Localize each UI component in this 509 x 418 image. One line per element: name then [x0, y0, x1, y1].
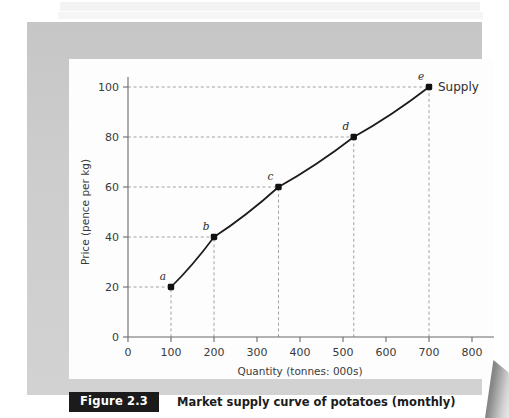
figure-frame: 0204060801000100200300400500600700800Qua… [27, 22, 482, 395]
data-point-d[interactable] [351, 134, 357, 140]
x-tick-label-0: 0 [125, 346, 132, 359]
y-tick-label-60: 60 [105, 181, 119, 194]
data-point-label-c: c [268, 170, 274, 182]
x-tick-label-300: 300 [247, 346, 268, 359]
y-tick-label-80: 80 [105, 131, 119, 144]
figure-number-badge: Figure 2.3 [69, 392, 159, 413]
data-point-label-e: e [418, 70, 424, 82]
x-tick-label-600: 600 [376, 346, 397, 359]
scan-bleed-band-top [60, 2, 480, 11]
data-point-b[interactable] [211, 234, 217, 240]
y-tick-label-40: 40 [105, 231, 119, 244]
x-tick-label-700: 700 [419, 346, 440, 359]
data-point-c[interactable] [275, 184, 281, 190]
supply-curve-chart: 0204060801000100200300400500600700800Qua… [69, 59, 494, 379]
data-point-label-d: d [342, 120, 349, 132]
data-point-label-a: a [160, 270, 166, 282]
figure-caption-row: Figure 2.3 Market supply curve of potato… [69, 390, 494, 414]
y-axis-title: Price (pence per kg) [79, 159, 91, 265]
series-label-supply: Supply [438, 80, 479, 94]
y-tick-label-20: 20 [105, 281, 119, 294]
data-point-e[interactable] [426, 84, 432, 90]
data-point-a[interactable] [168, 284, 174, 290]
scan-bleed-band-second [58, 12, 483, 19]
chart-plate: 0204060801000100200300400500600700800Qua… [69, 59, 494, 379]
x-tick-label-500: 500 [333, 346, 354, 359]
supply-curve-line [171, 87, 429, 287]
y-tick-label-100: 100 [98, 81, 119, 94]
x-axis-title: Quantity (tonnes: 000s) [237, 365, 362, 377]
data-point-label-b: b [203, 220, 210, 232]
y-tick-label-0: 0 [112, 331, 119, 344]
x-tick-label-200: 200 [204, 346, 225, 359]
x-tick-label-400: 400 [290, 346, 311, 359]
figure-caption-text: Market supply curve of potatoes (monthly… [177, 395, 455, 409]
x-tick-label-800: 800 [462, 346, 483, 359]
x-tick-label-100: 100 [161, 346, 182, 359]
